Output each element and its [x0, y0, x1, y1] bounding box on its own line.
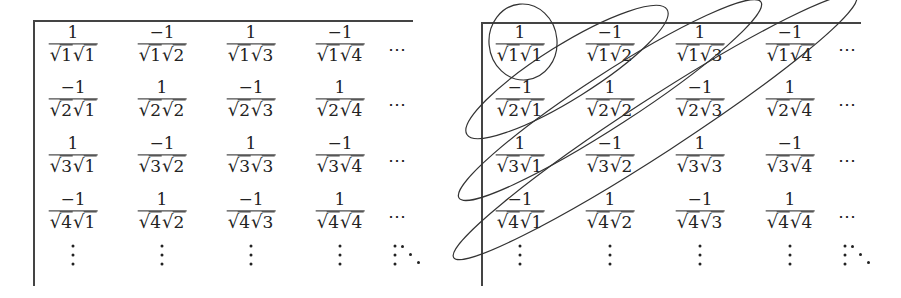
- row-axis-line: [481, 22, 483, 286]
- matrix-entry: −1√2√3: [676, 78, 725, 119]
- denominator: √1√2: [138, 47, 187, 65]
- numerator: 1: [512, 135, 529, 153]
- sqrt-term: √2: [139, 102, 162, 120]
- matrix-entry: −1√1√2: [138, 23, 187, 64]
- row-continuation-dots: ⋯: [838, 149, 858, 170]
- matrix-entry: 1√4√2: [586, 190, 635, 231]
- fraction: −1√4√3: [676, 191, 725, 231]
- numerator: 1: [332, 79, 349, 97]
- numerator: 1: [692, 135, 709, 153]
- matrix-entry: −1√4√1: [496, 190, 545, 231]
- fraction: −1√3√2: [586, 135, 635, 175]
- sqrt-term: √3: [251, 214, 274, 232]
- row-continuation-dots: ⋯: [388, 149, 408, 170]
- row-continuation-dots: ⋯: [388, 93, 408, 114]
- sqrt-term: √3: [139, 158, 162, 176]
- numerator: 1: [243, 24, 260, 42]
- sqrt-term: √3: [587, 158, 610, 176]
- matrix-entry: 1√1√3: [227, 23, 276, 64]
- fraction: −1√1√2: [586, 24, 635, 64]
- matrix-entry: −1√2√1: [496, 78, 545, 119]
- fraction: −1√4√1: [496, 191, 545, 231]
- matrix-entry: −1√2√3: [227, 78, 276, 119]
- sqrt-term: √1: [520, 47, 543, 65]
- denominator: √1√1: [496, 47, 545, 65]
- numerator: 1: [782, 79, 799, 97]
- sqrt-term: √4: [790, 102, 813, 120]
- sqrt-term: √4: [767, 214, 790, 232]
- sqrt-term: √1: [73, 102, 96, 120]
- denominator: √2√1: [496, 102, 545, 120]
- sqrt-term: √3: [50, 158, 73, 176]
- sqrt-term: √2: [610, 158, 633, 176]
- denominator: √4√4: [766, 214, 815, 232]
- matrix-panel-plain: 1√1√1−1√1√21√1√3−1√1√4⋯−1√2√11√2√2−1√2√3…: [0, 0, 450, 298]
- sqrt-term: √4: [317, 214, 340, 232]
- matrix-entry: −1√4√3: [676, 190, 725, 231]
- denominator: √3√1: [496, 158, 545, 176]
- fraction: 1√1√1: [496, 24, 545, 64]
- matrix-entry: −1√4√3: [227, 190, 276, 231]
- denominator: √1√1: [49, 47, 98, 65]
- sqrt-term: √4: [677, 214, 700, 232]
- sqrt-term: √2: [610, 214, 633, 232]
- sqrt-term: √1: [677, 47, 700, 65]
- matrix-entry: 1√4√4: [766, 190, 815, 231]
- fraction: 1√4√4: [766, 191, 815, 231]
- matrix-entry: −1√1√4: [766, 23, 815, 64]
- matrix-entry: 1√1√1: [496, 23, 545, 64]
- matrix-entry: −1√1√2: [586, 23, 635, 64]
- denominator: √2√4: [316, 102, 365, 120]
- matrix-entry: −1√4√1: [49, 190, 98, 231]
- denominator: √3√4: [316, 158, 365, 176]
- column-continuation-dots: [250, 245, 253, 266]
- fraction: −1√2√1: [49, 79, 98, 119]
- diagonal-continuation-dots: [399, 243, 421, 267]
- sqrt-term: √2: [162, 47, 185, 65]
- numerator: 1: [602, 79, 619, 97]
- denominator: √4√2: [138, 214, 187, 232]
- column-continuation-dots: [844, 245, 847, 266]
- numerator: −1: [594, 135, 625, 153]
- fraction: −1√3√4: [766, 135, 815, 175]
- fraction: 1√2√4: [766, 79, 815, 119]
- fraction: 1√3√1: [496, 135, 545, 175]
- denominator: √4√2: [586, 214, 635, 232]
- sqrt-term: √2: [767, 102, 790, 120]
- column-continuation-dots: [699, 245, 702, 266]
- sqrt-term: √3: [251, 47, 274, 65]
- denominator: √2√3: [676, 102, 725, 120]
- sqrt-term: √4: [790, 47, 813, 65]
- denominator: √3√4: [766, 158, 815, 176]
- sqrt-term: √4: [497, 214, 520, 232]
- sqrt-term: √1: [520, 102, 543, 120]
- matrix-entry: 1√3√1: [49, 134, 98, 175]
- sqrt-term: √1: [73, 47, 96, 65]
- fraction: −1√1√2: [138, 24, 187, 64]
- numerator: −1: [324, 135, 355, 153]
- column-continuation-dots: [72, 245, 75, 266]
- row-continuation-dots: ⋯: [388, 38, 408, 59]
- row-axis-line: [33, 20, 35, 286]
- sqrt-term: √1: [73, 158, 96, 176]
- matrix-entry: −1√2√1: [49, 78, 98, 119]
- denominator: √3√3: [676, 158, 725, 176]
- numerator: −1: [774, 135, 805, 153]
- sqrt-term: √3: [700, 47, 723, 65]
- numerator: 1: [154, 79, 171, 97]
- matrix-entry: 1√1√3: [676, 23, 725, 64]
- matrix-entry: 1√3√1: [496, 134, 545, 175]
- fraction: 1√1√3: [676, 24, 725, 64]
- sqrt-term: √4: [790, 214, 813, 232]
- fraction: 1√2√4: [316, 79, 365, 119]
- numerator: 1: [154, 191, 171, 209]
- fraction: 1√1√1: [49, 24, 98, 64]
- denominator: √3√2: [586, 158, 635, 176]
- sqrt-term: √3: [497, 158, 520, 176]
- column-continuation-dots: [339, 245, 342, 266]
- sqrt-term: √1: [767, 47, 790, 65]
- fraction: 1√3√1: [49, 135, 98, 175]
- matrix-entry: −1√3√4: [766, 134, 815, 175]
- fraction: −1√2√3: [227, 79, 276, 119]
- matrix-entry: 1√1√1: [49, 23, 98, 64]
